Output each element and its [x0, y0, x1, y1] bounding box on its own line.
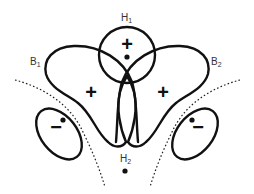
h2-nucleus-dot — [122, 168, 127, 173]
b2-plus-sign: + — [157, 81, 169, 103]
b1-label: B1 — [30, 56, 41, 68]
right-minus-sign: − — [192, 116, 204, 138]
b2-label: B2 — [211, 56, 222, 68]
diagram-canvas: + + + − − H1 H2 B1 B2 — [0, 0, 254, 194]
orbital-diagram: + + + − − H1 H2 B1 B2 — [0, 0, 254, 194]
h1-nucleus-dot — [124, 54, 129, 59]
left-minus-sign: − — [50, 116, 62, 138]
h1-plus-sign: + — [121, 33, 133, 55]
h1-label: H1 — [121, 12, 132, 24]
h2-label: H2 — [120, 153, 131, 165]
b1-plus-sign: + — [85, 81, 97, 103]
